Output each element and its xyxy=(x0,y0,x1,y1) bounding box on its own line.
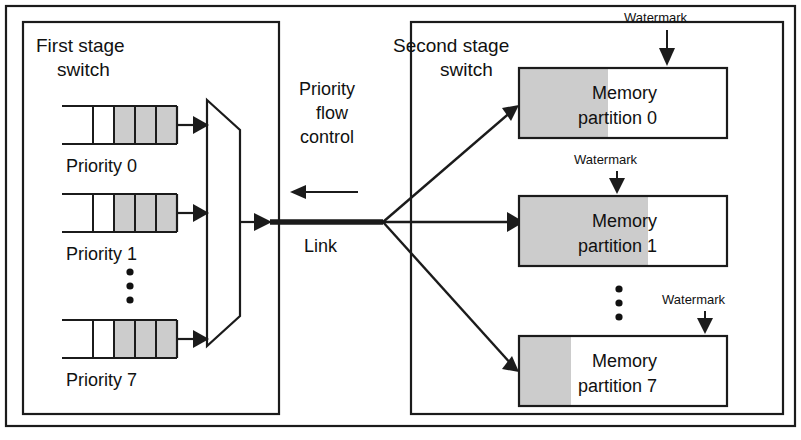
memory-partition-1: Memory partition 1 xyxy=(519,196,727,266)
second-stage-label-line1: Second stage xyxy=(393,35,509,56)
fanout-to-partition-0 xyxy=(383,105,519,222)
memory-partition-7-fill xyxy=(519,336,571,406)
watermark-marker-1: Watermark xyxy=(574,152,638,194)
mux-output-arrowhead xyxy=(254,213,272,231)
figure-canvas: First stage switch Priority 0 Priority 1 xyxy=(0,0,801,440)
first-stage-ellipsis-dot-3 xyxy=(126,296,133,303)
queue-0-label: Priority 0 xyxy=(66,156,137,176)
queue-1-fill xyxy=(114,194,177,232)
memory-partition-0-name-line1: Memory xyxy=(592,83,657,103)
fanout-to-partition-7 xyxy=(383,222,519,372)
queue-1-label: Priority 1 xyxy=(66,244,137,264)
fanout-to-partition-1 xyxy=(383,212,524,232)
memory-partition-0-name-line2: partition 0 xyxy=(578,108,657,128)
two-stage-switch-diagram: First stage switch Priority 0 Priority 1 xyxy=(0,0,801,440)
second-stage-ellipsis-dot-2 xyxy=(615,299,622,306)
watermark-7-arrowhead xyxy=(697,318,713,334)
second-stage-label-line2: switch xyxy=(440,59,493,80)
flow-control-arrowhead xyxy=(290,185,306,199)
first-stage-ellipsis-dot-1 xyxy=(126,268,133,275)
watermark-1-arrowhead xyxy=(609,178,625,194)
watermark-0-label: Watermark xyxy=(624,10,688,25)
queue-7-label: Priority 7 xyxy=(66,370,137,390)
flow-control-label-line1: Priority xyxy=(299,79,355,99)
first-stage-ellipsis xyxy=(126,268,133,303)
priority-flow-control-arrow xyxy=(290,185,358,199)
memory-partition-7-name-line2: partition 7 xyxy=(578,376,657,396)
memory-partition-1-name-line2: partition 1 xyxy=(578,236,657,256)
flow-control-label-line3: control xyxy=(300,127,354,147)
queue-priority-7 xyxy=(62,320,209,358)
link-label: Link xyxy=(304,236,338,256)
first-stage-ellipsis-dot-2 xyxy=(126,282,133,289)
second-stage-ellipsis xyxy=(615,285,622,320)
priority-multiplexer xyxy=(207,100,240,346)
queue-0-fill xyxy=(114,106,177,144)
memory-partition-0: Memory partition 0 xyxy=(519,68,727,138)
fanout-0-line xyxy=(383,110,513,222)
queue-priority-1 xyxy=(62,194,209,232)
second-stage-ellipsis-dot-3 xyxy=(615,313,622,320)
memory-partition-1-name-line1: Memory xyxy=(592,211,657,231)
queue-priority-0 xyxy=(62,106,209,144)
memory-partition-7-name-line1: Memory xyxy=(592,351,657,371)
queue-7-fill xyxy=(114,320,177,358)
watermark-1-label: Watermark xyxy=(574,152,638,167)
flow-control-label-line2: flow xyxy=(316,103,349,123)
watermark-0-arrowhead xyxy=(659,48,675,66)
watermark-marker-0: Watermark xyxy=(624,10,688,66)
first-stage-label-line1: First stage xyxy=(36,35,125,56)
second-stage-ellipsis-dot-1 xyxy=(615,285,622,292)
watermark-marker-7: Watermark xyxy=(662,292,726,334)
fanout-7-line xyxy=(383,222,513,366)
watermark-7-label: Watermark xyxy=(662,292,726,307)
first-stage-label-line2: switch xyxy=(57,59,110,80)
memory-partition-7: Memory partition 7 xyxy=(519,336,727,406)
